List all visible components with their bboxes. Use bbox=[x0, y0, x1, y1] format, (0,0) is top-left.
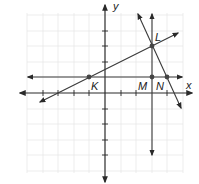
coordinate-plane: y x K L M N bbox=[0, 0, 199, 184]
x-axis-label: x bbox=[185, 79, 192, 91]
label-M: M bbox=[138, 80, 148, 92]
label-L: L bbox=[155, 31, 161, 43]
point-L bbox=[150, 44, 155, 49]
label-K: K bbox=[91, 80, 99, 92]
points bbox=[87, 44, 170, 80]
line-LN bbox=[138, 14, 181, 108]
axes bbox=[20, 5, 192, 182]
label-N: N bbox=[156, 80, 164, 92]
point-N bbox=[165, 75, 170, 80]
point-M bbox=[150, 75, 155, 80]
point-K bbox=[87, 75, 92, 80]
y-axis-label: y bbox=[112, 0, 120, 12]
